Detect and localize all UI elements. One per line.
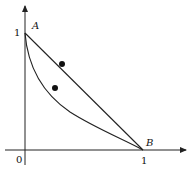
marker-on-curve [52, 85, 58, 91]
x-tick-label: 1 [141, 155, 147, 166]
marker-on-segment [59, 61, 65, 67]
y-tick-label: 1 [14, 27, 20, 38]
point-a-label: A [31, 20, 39, 31]
origin-label: 0 [16, 154, 22, 165]
point-b-label: B [145, 137, 153, 148]
segment-ab [25, 33, 143, 150]
diagram: 1 A B 0 1 [0, 0, 189, 169]
